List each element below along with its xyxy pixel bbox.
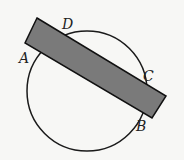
label-c: C (143, 68, 154, 84)
geometry-diagram: D A C B (0, 0, 184, 160)
label-d: D (61, 16, 73, 32)
diagram-canvas: D A C B (0, 0, 184, 160)
label-a: A (17, 50, 29, 66)
label-b: B (135, 118, 146, 134)
